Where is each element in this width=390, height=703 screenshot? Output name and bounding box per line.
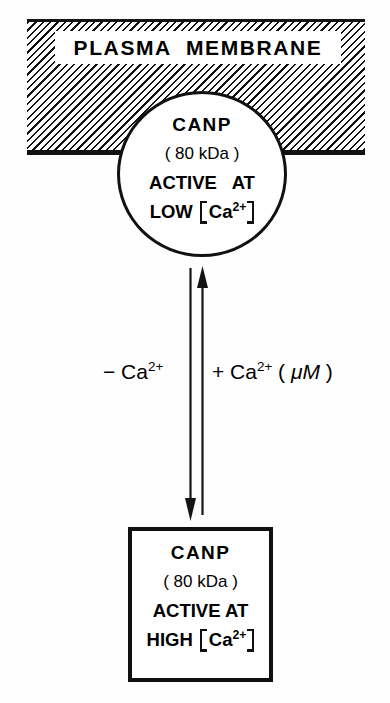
up-arrow-head-icon [197, 266, 208, 288]
ca-symbol: Ca [209, 201, 233, 222]
canp-circle-mass: ( 80 kDa ) [165, 145, 240, 162]
ca-charge: 2+ [232, 199, 246, 213]
canp-circle-concentration: LOW Ca2+ [150, 201, 255, 225]
down-arrow [185, 268, 196, 521]
canp-translocation-figure: PLASMA MEMBRANE CANP ( 80 kDa ) ACTIVE A… [0, 0, 390, 703]
membrane-bound-canp-circle: CANP ( 80 kDa ) ACTIVE AT LOW Ca2+ [117, 91, 287, 257]
up-arrow [197, 266, 208, 515]
canp-circle-conc-bracket: Ca2+ [200, 201, 255, 225]
left-bracket-icon [200, 201, 207, 225]
right-bracket-icon [247, 201, 254, 225]
canp-circle-state: ACTIVE AT [149, 174, 255, 193]
canp-circle-conc-level: LOW [150, 203, 193, 222]
canp-circle-name: CANP [172, 115, 231, 134]
canp-circle-conc-species: Ca2+ [207, 201, 248, 225]
down-arrow-head-icon [185, 498, 196, 521]
